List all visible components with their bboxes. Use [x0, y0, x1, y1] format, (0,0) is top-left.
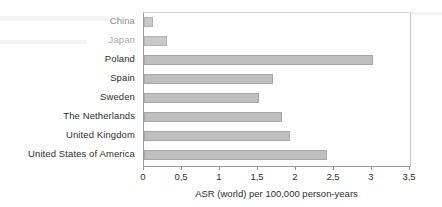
plot-area	[143, 12, 411, 167]
x-axis-title: ASR (world) per 100,000 person-years	[143, 188, 410, 200]
x-ticklabel-7: 3,5	[402, 171, 415, 182]
bar-china	[144, 17, 153, 27]
x-tickmark-5	[333, 166, 334, 170]
x-ticklabel-1: 0,5	[174, 171, 187, 182]
x-ticklabel-2: 1	[216, 171, 221, 182]
x-ticklabel-3: 1,5	[250, 171, 263, 182]
category-label-spain: Spain	[0, 73, 135, 83]
bar-the-netherlands	[144, 112, 282, 122]
category-label-china: China	[0, 16, 135, 26]
bar-united-states-of-america	[144, 150, 327, 160]
category-label-poland: Poland	[0, 54, 135, 64]
x-ticklabel-6: 3	[368, 171, 373, 182]
x-tickmark-4	[295, 166, 296, 170]
category-label-japan: Japan	[0, 35, 135, 45]
category-label-netherlands: The Netherlands	[0, 111, 135, 121]
category-label-sweden: Sweden	[0, 92, 135, 102]
x-tickmark-3	[257, 166, 258, 170]
category-label-usa: United States of America	[0, 149, 135, 159]
bar-poland	[144, 55, 373, 65]
bars-layer	[144, 13, 410, 166]
x-axis-ticklabels: 00,511,522,533,5	[143, 171, 410, 185]
x-tickmark-1	[181, 166, 182, 170]
x-tickmark-2	[219, 166, 220, 170]
x-tickmark-7	[409, 166, 410, 170]
bar-spain	[144, 74, 273, 84]
bar-united-kingdom	[144, 131, 290, 141]
bar-chart: China Japan Poland Spain Sweden The Neth…	[0, 0, 442, 207]
bar-sweden	[144, 93, 259, 103]
x-tickmark-0	[143, 166, 144, 170]
x-ticklabel-5: 2,5	[326, 171, 339, 182]
category-label-united-kingdom: United Kingdom	[0, 130, 135, 140]
x-ticklabel-4: 2	[292, 171, 297, 182]
category-axis-labels: China Japan Poland Spain Sweden The Neth…	[0, 13, 140, 165]
bar-japan	[144, 36, 167, 46]
scan-artifact	[410, 12, 442, 15]
x-ticklabel-0: 0	[140, 171, 145, 182]
x-tickmark-6	[371, 166, 372, 170]
